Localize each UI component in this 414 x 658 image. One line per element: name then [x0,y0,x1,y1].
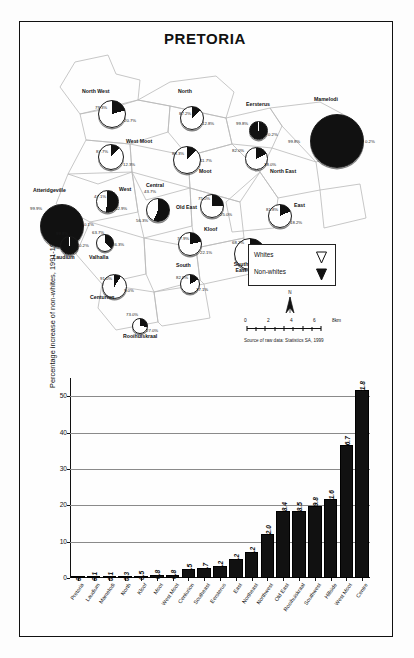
x-tick-mark [188,578,189,581]
pct-nonwhite-central: 56.3% [136,218,148,223]
pct-nonwhite-east: 18.2% [290,220,302,225]
x-tick-mark [141,578,142,581]
pie-central [146,198,170,222]
bar-value-label: 18.4 [281,502,288,515]
region-label-south: South [176,262,191,268]
map-panel: PRETORIA [20,22,390,352]
gridline [70,396,370,397]
region-label-eersterus: Eersterus [246,102,270,108]
pct-nonwhite-moot: 11.7% [200,158,212,163]
y-tick-label: 50 [47,392,67,399]
bar [324,499,338,578]
scale-tick-3: 6 [313,318,316,323]
bar-value-label: 19.8 [312,497,319,510]
map-legend: Whites Non-whites [248,244,336,286]
pct-nonwhite-south: 17.1% [196,287,208,292]
legend-row-non-whites: Non-whites [254,266,330,281]
pct-white-centurion: 91.0% [100,276,112,281]
pct-white-central: 43.7% [144,189,156,194]
region-label-north: North [178,88,192,94]
x-tick-mark [94,578,95,581]
bar [276,511,290,578]
map-scalebar: 0 2 4 6 8km [244,318,348,336]
pct-white-west: 47.1% [94,194,106,199]
pct-nonwhite-old-east: 25.0% [220,212,232,217]
map-source-note: Source of raw data: Statistics SA, 1999 [244,338,324,343]
pie-west-moot [98,144,124,170]
x-tick-mark [78,578,79,581]
bar [261,534,275,578]
legend-row-whites: Whites [254,249,330,264]
x-tick-mark [283,578,284,581]
x-tick-mark [204,578,205,581]
region-label-east: East [294,202,305,208]
region-label-west: West [119,186,131,192]
y-tick-label: 20 [47,501,67,508]
figure-page: PRETORIA [0,0,414,658]
y-tick-label: 30 [47,465,67,472]
bar [340,445,354,578]
region-label-centurion: Centurion [90,294,115,300]
pie-laudium [60,236,79,255]
x-tick-mark [109,578,110,581]
pct-white-north: 87.2% [179,111,191,116]
figure-frame: PRETORIA [19,21,393,637]
bar [292,511,306,578]
pct-white-rooihuiskraal: 73.0% [126,312,138,317]
pie-mamelodi [310,114,364,168]
scale-tick-1: 2 [267,318,270,323]
region-label-atteridgeville: Atteridgeville [33,187,66,193]
bar [355,390,369,578]
legend-label-non-whites: Non-whites [254,268,286,275]
y-tick-mark [67,505,71,506]
bar [308,506,322,578]
x-tick-mark [252,578,253,581]
y-tick-mark [67,542,71,543]
pie-north [180,106,204,130]
bar-value-label: 2.5 [186,564,193,573]
pct-white-north-east: 82.0% [232,148,244,153]
bar-value-label: 2.7 [202,563,209,572]
pct-white-moot: 88.3% [172,151,184,156]
region-label-west-moot: West Moot [126,138,152,144]
legend-label-whites: Whites [254,251,274,258]
pct-white-south-east: 68.2% [232,240,244,245]
pct-white-kloof: 77.9% [177,236,189,241]
pct-white-east: 81.8% [266,207,278,212]
bar-value-label: 36.7 [344,436,351,449]
y-tick-label: 10 [47,538,67,545]
pct-white-south: 82.9% [176,275,188,280]
x-tick-mark [267,578,268,581]
bar-value-label: 51.8 [359,381,366,394]
scale-tick-2: 4 [290,318,293,323]
y-tick-mark [67,469,71,470]
chart-plot-area: 01020304050 00.10.10.30.50.80.82.52.73.2… [70,378,370,578]
pct-nonwhite-valhalla: 36.3% [112,242,124,247]
pct-nonwhite-laudium: 0.2% [79,243,89,248]
pct-white-eersterus: 99.8% [236,121,248,126]
scale-tick-4: 8km [332,318,341,323]
region-label-north-east: North East [270,168,296,174]
pct-white-valhalla: 63.7% [92,230,104,235]
chart-y-axis-label: Percentage increase of non-whites, 1991-… [48,218,57,388]
y-tick-mark [67,433,71,434]
pct-nonwhite-north: 12.8% [202,121,214,126]
region-label-rooihuiskraal: Rooihuiskraal [123,334,153,340]
pct-nonwhite-atteridgeville: 0.1% [84,222,94,227]
north-arrow-icon: N [278,290,302,316]
region-label-central: Central [146,182,164,188]
x-tick-mark [173,578,174,581]
gridline [70,469,370,470]
black-wedge-icon [315,267,328,280]
x-tick-mark [299,578,300,581]
x-tick-mark [157,578,158,581]
region-label-north-west: North West [82,88,110,94]
bar-value-label: 12.0 [265,526,272,539]
pct-white-old-east: 75.0% [198,196,210,201]
pct-white-atteridgeville: 99.9% [30,206,42,211]
pct-white-mamelodi: 99.8% [288,139,300,144]
pct-white-west-moot: 87.7% [96,149,108,154]
pct-nonwhite-rooihuiskraal: 27.0% [146,328,158,333]
bar-value-label: 5.2 [233,554,240,563]
pct-nonwhite-kloof: 22.1% [200,250,212,255]
